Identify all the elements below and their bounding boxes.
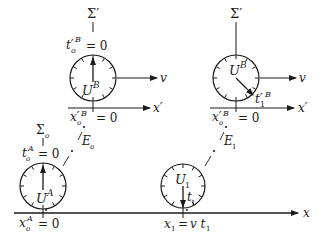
velocity-label: v (160, 71, 167, 85)
position-sub: o (77, 119, 81, 127)
clock-u1: U 1 t 1 x 1 = v t 1 (161, 164, 210, 233)
time-sub: o (71, 46, 76, 55)
axis-label-x-prime: x′ (298, 101, 308, 115)
frame-sub: o (45, 132, 49, 140)
event-link (63, 156, 69, 166)
position-sup: B (80, 109, 87, 118)
position-label-x1: x (164, 217, 171, 231)
position-sup: B (222, 109, 229, 118)
event-sub: o (90, 143, 94, 151)
event-dot (83, 126, 85, 128)
position-eq: = (178, 217, 188, 231)
event-Eo: E o (63, 126, 94, 166)
event-dot (225, 126, 227, 128)
frame-label-sigma: Σ (36, 123, 44, 137)
clock-label-sup: B (92, 80, 100, 90)
event-dot (213, 150, 215, 152)
time-sup: B (264, 90, 271, 99)
clock-ub-initial: Σ′ t′ o B = 0 U B v (66, 6, 167, 127)
time-sup: B (74, 35, 81, 44)
position-value: = 0 (38, 217, 60, 231)
time-sub: o (26, 155, 30, 163)
frame-label-sigma-prime: Σ′ (230, 6, 242, 21)
event-dot (45, 209, 47, 211)
clock-hand (236, 78, 253, 95)
position-sub: 1 (171, 225, 175, 233)
relativity-diagram: Σ′ t′ o B = 0 U B v (0, 0, 329, 241)
clock-label-sup: A (46, 188, 54, 198)
axis-label-x: x (303, 206, 310, 220)
position-value: = 0 (238, 111, 260, 125)
position-label-xA: x (19, 216, 26, 230)
position-sup: A (26, 214, 33, 223)
clock-ua: Σ o t o A = 0 U A x o A = (19, 123, 66, 233)
time-sup: A (27, 144, 34, 153)
position-sub: o (219, 119, 223, 127)
frame-label-sigma-prime: Σ′ (87, 6, 99, 21)
axis-label-x-prime: x′ (153, 101, 163, 115)
clock-label-sup: B (239, 60, 247, 70)
clock-ub-later: Σ′ U B t′ 1 B v x′ x′ o (210, 6, 308, 127)
position-value: v t (190, 217, 206, 231)
time-value: = 0 (86, 39, 108, 53)
position-value-sub: 1 (206, 225, 210, 233)
event-dot (186, 209, 188, 211)
event-dot (71, 150, 73, 152)
time-value: = 0 (38, 147, 60, 161)
event-sub: 1 (232, 143, 236, 151)
position-sub: o (26, 225, 30, 233)
event-link (205, 156, 211, 166)
event-E1: E 1 (205, 126, 236, 166)
time-sub: 1 (191, 199, 195, 207)
position-value: = 0 (96, 111, 118, 125)
velocity-label: v (299, 71, 306, 85)
clock-label-sub: 1 (185, 181, 190, 190)
